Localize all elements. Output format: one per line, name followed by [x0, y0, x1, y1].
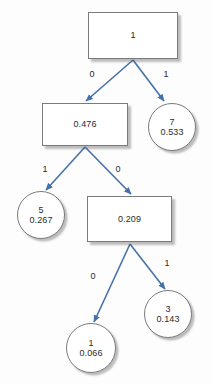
tree-edge	[46, 147, 85, 190]
node-primary-label: 5	[38, 205, 43, 216]
node-secondary-label: 0.267	[29, 215, 52, 226]
tree-edge	[86, 60, 133, 101]
node-primary-label: 1	[88, 338, 93, 349]
tree-leaf-node: 50.267	[17, 191, 65, 239]
tree-leaf-node: 30.143	[144, 290, 192, 338]
edge-label: 1	[164, 258, 169, 268]
tree-decision-node: 1	[88, 12, 178, 59]
tree-edge	[94, 244, 130, 322]
edge-label: 1	[163, 69, 168, 79]
decision-tree-diagram: 10.47670.53350.2670.20910.06630.143 0110…	[0, 0, 212, 384]
node-primary-label: 0.476	[73, 119, 96, 130]
edge-label: 0	[115, 164, 120, 174]
tree-decision-node: 0.209	[87, 196, 172, 242]
node-secondary-label: 0.143	[156, 314, 179, 325]
node-secondary-label: 0.533	[160, 127, 183, 138]
node-primary-label: 7	[169, 117, 174, 128]
tree-edge	[133, 60, 164, 101]
edge-label: 1	[42, 164, 47, 174]
edge-label: 0	[89, 69, 94, 79]
tree-edge	[85, 147, 131, 194]
node-primary-label: 1	[130, 30, 135, 41]
node-primary-label: 0.209	[118, 214, 141, 225]
edge-label: 0	[90, 271, 95, 281]
node-secondary-label: 0.066	[79, 348, 102, 359]
tree-edge	[130, 244, 165, 289]
tree-decision-node: 0.476	[42, 103, 128, 146]
node-primary-label: 3	[165, 304, 170, 315]
tree-leaf-node: 70.533	[148, 103, 196, 151]
tree-leaf-node: 10.066	[66, 323, 116, 373]
